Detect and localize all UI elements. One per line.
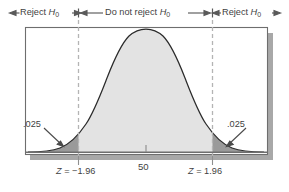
label-reject-left-subscript: 0 (55, 11, 59, 18)
right-tail-probability-label: .025 (227, 119, 245, 129)
statistics-figure: Reject H0 Do not reject H0 Reject H0 .02… (0, 0, 289, 192)
critical-value-right-label: Z = 1.96 (188, 166, 222, 176)
region-label-row: Reject H0 Do not reject H0 Reject H0 (0, 0, 289, 26)
label-do-not-reject-text: Do not reject (105, 7, 157, 17)
critical-value-left-equals: = (62, 166, 72, 176)
critical-value-right-equals: = (194, 166, 204, 176)
label-reject-right-subscript: 0 (257, 11, 261, 18)
critical-value-left-label: Z = −1.96 (56, 166, 95, 176)
label-reject-right-text: Reject (222, 7, 248, 17)
label-do-not-reject-subscript: 0 (166, 11, 170, 18)
label-do-not-reject: Do not reject H0 (105, 6, 170, 21)
left-tail-probability-label: .025 (23, 119, 41, 129)
critical-value-left-value: −1.96 (72, 166, 95, 176)
critical-value-right-value: 1.96 (204, 166, 222, 176)
mean-value-label: 50 (138, 161, 149, 172)
label-reject-right: Reject H0 (222, 6, 261, 21)
label-reject-left: Reject H0 (20, 6, 59, 21)
label-reject-left-text: Reject (20, 7, 46, 17)
